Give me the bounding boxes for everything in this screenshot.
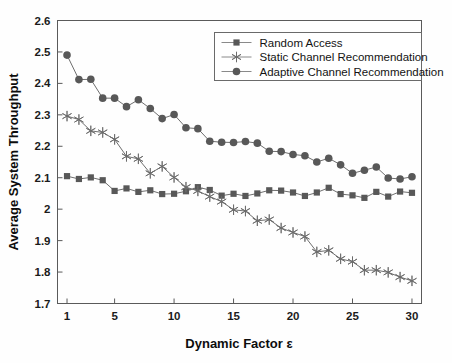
x-tick-label: 1 bbox=[64, 310, 71, 322]
data-point-square bbox=[233, 39, 239, 45]
data-point-circle bbox=[218, 138, 226, 146]
y-tick-label: 2.2 bbox=[35, 140, 51, 152]
data-point-circle bbox=[349, 170, 357, 178]
data-point-star bbox=[336, 254, 345, 264]
data-point-square bbox=[64, 173, 70, 179]
data-point-square bbox=[373, 189, 379, 195]
y-tick-label: 2 bbox=[44, 203, 50, 215]
y-tick-label: 2.3 bbox=[35, 109, 51, 121]
data-point-square bbox=[361, 195, 367, 201]
data-point-star bbox=[63, 111, 72, 121]
data-point-square bbox=[349, 192, 355, 198]
data-point-star bbox=[193, 186, 202, 196]
data-point-circle bbox=[170, 111, 178, 119]
data-point-circle bbox=[111, 94, 119, 102]
data-point-star bbox=[217, 196, 226, 206]
y-tick-label: 2.1 bbox=[35, 172, 52, 184]
data-point-square bbox=[159, 191, 165, 197]
data-point-square bbox=[230, 191, 236, 197]
x-tick-label: 30 bbox=[406, 310, 419, 322]
data-point-square bbox=[338, 191, 344, 197]
data-point-star bbox=[289, 227, 298, 237]
data-point-square bbox=[266, 187, 272, 193]
data-point-circle bbox=[361, 166, 369, 174]
data-point-circle bbox=[182, 124, 190, 132]
y-tick-label: 2.5 bbox=[35, 46, 52, 58]
data-point-circle bbox=[233, 68, 241, 76]
x-axis-title: Dynamic Factor ε bbox=[185, 336, 292, 351]
data-point-circle bbox=[135, 96, 143, 104]
y-tick-label: 2.4 bbox=[35, 77, 52, 89]
data-point-square bbox=[397, 188, 403, 194]
data-point-circle bbox=[146, 105, 154, 113]
data-point-star bbox=[407, 276, 416, 286]
data-point-star bbox=[158, 161, 167, 171]
series-square bbox=[64, 173, 415, 201]
x-tick-label: 15 bbox=[227, 310, 240, 322]
data-point-square bbox=[76, 176, 82, 182]
data-point-circle bbox=[337, 161, 345, 169]
data-point-circle bbox=[325, 154, 333, 162]
data-point-star bbox=[384, 267, 393, 277]
data-point-circle bbox=[123, 103, 131, 111]
data-point-square bbox=[123, 185, 129, 191]
y-tick-label: 1.9 bbox=[35, 235, 51, 247]
data-point-square bbox=[147, 187, 153, 193]
data-point-square bbox=[278, 188, 284, 194]
data-point-circle bbox=[408, 173, 416, 181]
data-point-square bbox=[242, 193, 248, 199]
legend-label: Random Access bbox=[260, 37, 343, 49]
data-point-circle bbox=[301, 152, 309, 160]
data-point-circle bbox=[242, 138, 250, 146]
data-point-circle bbox=[277, 148, 285, 156]
data-point-square bbox=[290, 189, 296, 195]
chart-figure: 1.71.81.922.12.22.32.42.52.6 15101520253… bbox=[0, 0, 452, 363]
y-axis-title: Average System Throughput bbox=[6, 73, 21, 251]
x-tick-label: 20 bbox=[287, 310, 300, 322]
x-tick-label: 5 bbox=[111, 310, 118, 322]
data-point-star bbox=[170, 172, 179, 182]
data-point-star bbox=[348, 256, 357, 266]
series-layer bbox=[63, 51, 417, 286]
x-tick-label: 10 bbox=[168, 310, 181, 322]
data-point-star bbox=[205, 191, 214, 201]
legend-label: Static Channel Recommendation bbox=[260, 51, 428, 63]
y-tick-label: 1.8 bbox=[35, 266, 52, 278]
x-axis-ticks: 151015202530 bbox=[64, 299, 419, 322]
data-point-square bbox=[135, 189, 141, 195]
data-point-square bbox=[409, 190, 415, 196]
data-point-circle bbox=[265, 148, 273, 156]
data-point-square bbox=[88, 174, 94, 180]
data-point-square bbox=[254, 190, 260, 196]
data-point-circle bbox=[75, 76, 83, 84]
data-point-square bbox=[326, 185, 332, 191]
data-point-circle bbox=[87, 76, 95, 84]
chart-svg: 1.71.81.922.12.22.32.42.52.6 15101520253… bbox=[0, 0, 452, 363]
data-point-star bbox=[277, 223, 286, 233]
data-point-square bbox=[171, 191, 177, 197]
legend-label: Adaptive Channel Recommendation bbox=[260, 66, 444, 78]
data-point-square bbox=[111, 188, 117, 194]
data-point-circle bbox=[254, 139, 262, 147]
y-tick-label: 1.7 bbox=[35, 298, 51, 310]
data-point-circle bbox=[313, 158, 321, 166]
series-line bbox=[67, 116, 412, 281]
data-point-star bbox=[181, 182, 190, 192]
x-tick-label: 25 bbox=[346, 310, 359, 322]
series-line bbox=[67, 176, 412, 198]
data-point-circle bbox=[158, 115, 166, 123]
y-tick-label: 2.6 bbox=[35, 15, 51, 27]
data-point-circle bbox=[396, 175, 404, 183]
data-point-square bbox=[314, 189, 320, 195]
data-point-circle bbox=[384, 174, 392, 182]
data-point-circle bbox=[289, 151, 297, 159]
data-point-square bbox=[302, 193, 308, 199]
data-point-circle bbox=[206, 137, 214, 145]
data-point-square bbox=[100, 177, 106, 183]
chart-legend: Random AccessStatic Channel Recommendati… bbox=[215, 33, 444, 81]
data-point-square bbox=[385, 193, 391, 199]
y-axis-ticks: 1.71.81.922.12.22.32.42.52.6 bbox=[35, 15, 63, 310]
data-point-circle bbox=[194, 125, 202, 133]
data-point-circle bbox=[63, 51, 71, 59]
data-point-circle bbox=[372, 163, 380, 171]
